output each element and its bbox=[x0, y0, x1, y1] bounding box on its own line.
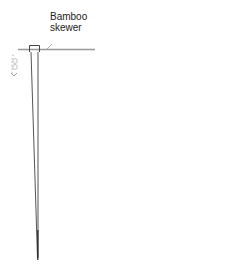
diagram-canvas bbox=[0, 0, 231, 273]
rotation-arrow-icon bbox=[11, 55, 17, 76]
label-line-2: skewer bbox=[50, 22, 87, 33]
label-line-1: Bamboo bbox=[50, 11, 87, 22]
bamboo-skewer-label: Bamboo skewer bbox=[50, 11, 87, 33]
tapered-stick bbox=[31, 52, 38, 258]
